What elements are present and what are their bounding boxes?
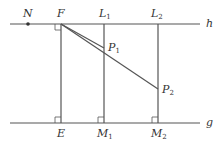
label-M2: M2 [150,127,167,141]
label-P2: P2 [161,83,174,97]
label-E: E [56,127,65,140]
label-N: N [22,7,33,20]
label-g: g [206,116,213,129]
label-F: F [56,7,65,20]
geometry-diagram: N F L1 L2 h g P1 P2 E M1 M2 [0,0,220,151]
label-h: h [206,17,213,30]
label-L2: L2 [150,7,163,21]
label-L1: L1 [98,7,111,21]
right-angle-M2 [152,117,158,123]
label-P1: P1 [107,41,120,55]
label-M1: M1 [96,127,113,141]
segment-FP2 [61,24,158,89]
point-N [26,22,30,26]
right-angle-F [55,24,61,30]
right-angle-E [55,117,61,123]
right-angle-M1 [98,117,104,123]
